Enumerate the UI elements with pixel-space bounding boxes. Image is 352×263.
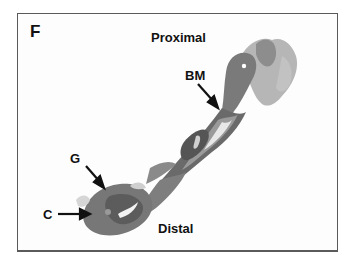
- arrow-c: [58, 209, 90, 219]
- arrow-bm: [198, 84, 218, 108]
- label-proximal: Proximal: [151, 30, 206, 45]
- arrow-g: [86, 166, 104, 188]
- label-c: C: [43, 207, 52, 222]
- label-bm: BM: [185, 68, 205, 83]
- label-g: G: [70, 151, 80, 166]
- label-distal: Distal: [158, 221, 193, 236]
